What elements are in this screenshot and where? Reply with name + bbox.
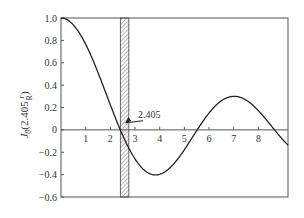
y-tick-label: 0.2 [45,102,58,113]
y-tick-label: 0.8 [45,35,58,46]
x-tick-label: 4 [157,133,162,144]
y-tick-label: 1.0 [45,13,58,24]
y-tick-label: −0.4 [39,169,57,180]
svg-text:J0(2.405 rR): J0(2.405 rR) [17,91,34,139]
annotation-2405: 2.405 [125,109,160,123]
x-tick-label: 2 [108,133,113,144]
x-tick-label: 7 [231,133,236,144]
chart-svg: 1.00.80.60.40.20−0.2−0.4−0.6 12345678 2.… [0,0,304,218]
y-tick-label: −0.6 [39,192,57,203]
x-tick-label: 3 [133,133,138,144]
y-axis-label: J0(2.405 rR) [17,91,34,139]
x-tick-label: 5 [182,133,187,144]
y-tick-label: 0 [52,124,57,135]
plot-frame [61,18,288,197]
hatched-band [120,18,129,197]
x-tick-label: 6 [207,133,212,144]
x-tick-label: 1 [83,133,88,144]
y-tick-label: 0.6 [45,57,58,68]
bessel-chart: 1.00.80.60.40.20−0.2−0.4−0.6 12345678 2.… [0,0,304,218]
bessel-curve [61,18,288,175]
y-tick-label: 0.4 [45,80,58,91]
x-tick-label: 8 [256,133,261,144]
y-tick-label: −0.2 [39,147,57,158]
y-axis-ticks: 1.00.80.60.40.20−0.2−0.4−0.6 [39,13,64,203]
annotation-label: 2.405 [138,109,161,120]
